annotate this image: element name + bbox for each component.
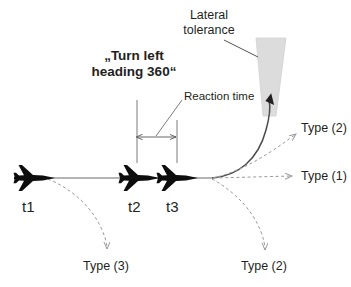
- diagram-canvas: Lateral tolerance „Turn left heading 360…: [0, 0, 351, 287]
- reaction-time-leader-line: [156, 100, 182, 136]
- lateral-tolerance-cone: [256, 38, 286, 116]
- time-label-t1: t1: [22, 198, 35, 216]
- time-label-t2: t2: [128, 198, 141, 216]
- aircraft-t1-icon: [14, 165, 56, 191]
- type-1-label: Type (1): [301, 169, 347, 184]
- lateral-tolerance-leader-line: [224, 40, 258, 57]
- type-1-trajectory: [214, 176, 292, 178]
- type-2-lower-trajectory: [212, 179, 265, 250]
- type-3-label: Type (3): [83, 259, 129, 274]
- diagram-vector-layer: [0, 0, 351, 287]
- reaction-time-label: Reaction time: [184, 90, 254, 104]
- aircraft-t2-icon: [119, 165, 161, 191]
- turn-trajectory-curve: [212, 100, 270, 178]
- type-3-trajectory: [48, 179, 107, 249]
- clearance-command-label: „Turn left heading 360“: [78, 48, 190, 80]
- lateral-tolerance-label: Lateral tolerance: [176, 8, 242, 38]
- type-2-lower-label: Type (2): [241, 259, 287, 274]
- time-label-t3: t3: [166, 198, 179, 216]
- aircraft-t3-icon: [157, 165, 199, 191]
- type-2-upper-label: Type (2): [301, 121, 347, 136]
